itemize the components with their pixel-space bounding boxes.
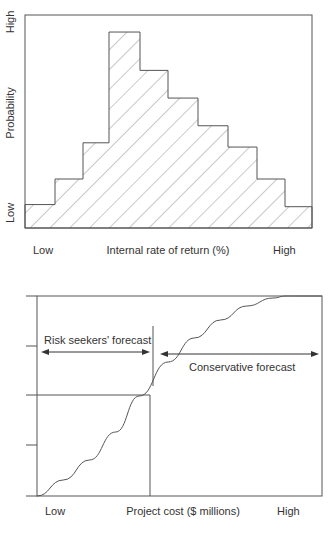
x-high-label-2: High — [277, 505, 300, 517]
risk-seekers-label: Risk seekers' forecast — [44, 334, 151, 346]
x-axis-label: Internal rate of return (%) — [107, 244, 230, 256]
risk-seekers-arrow — [41, 349, 150, 355]
histogram-chart: High Probability Low Low Internal rate o… — [4, 11, 312, 256]
x-low-label-2: Low — [45, 505, 65, 517]
x-axis-label-2: Project cost ($ millions) — [126, 505, 240, 517]
y-high-label: High — [4, 11, 16, 34]
cumulative-curve — [37, 296, 322, 496]
x-high-label: High — [273, 244, 296, 256]
cumulative-chart: Risk seekers' forecast Conservative fore… — [26, 296, 322, 517]
x-low-label: Low — [33, 244, 53, 256]
y-ticks — [26, 296, 37, 496]
conservative-arrow — [160, 351, 319, 357]
y-axis-label: Probability — [4, 87, 16, 139]
figure: High Probability Low Low Internal rate o… — [0, 0, 333, 533]
conservative-label: Conservative forecast — [189, 361, 295, 373]
y-low-label: Low — [4, 203, 16, 223]
histogram-outline — [25, 32, 312, 228]
histogram-bars — [25, 32, 312, 228]
